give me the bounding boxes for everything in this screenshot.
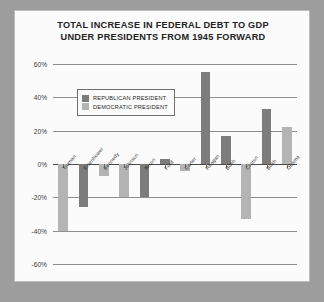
legend-swatch-icon bbox=[82, 95, 89, 102]
bar-rect bbox=[262, 109, 271, 164]
y-axis-tick-label: -60% bbox=[13, 261, 47, 268]
chart-title: TOTAL INCREASE IN FEDERAL DEBT TO GDP UN… bbox=[15, 20, 311, 43]
legend-label: DEMOCRATIC PRESIDENT bbox=[93, 104, 168, 110]
legend-label: REPUBLICAN PRESIDENT bbox=[93, 95, 166, 101]
legend-item-democratic: DEMOCRATIC PRESIDENT bbox=[82, 103, 168, 110]
chart-title-line-1: TOTAL INCREASE IN FEDERAL DEBT TO GDP bbox=[15, 20, 311, 32]
chart-title-line-2: UNDER PRESIDENTS FROM 1945 FORWARD bbox=[15, 32, 311, 44]
image-frame: TOTAL INCREASE IN FEDERAL DEBT TO GDP UN… bbox=[0, 0, 324, 302]
y-axis-tick-label: 0% bbox=[13, 161, 47, 168]
y-axis-tick-label: -40% bbox=[13, 227, 47, 234]
bar-rect bbox=[241, 164, 250, 219]
bar-rect bbox=[58, 164, 67, 231]
legend-swatch-icon bbox=[82, 103, 89, 110]
gridline--60% bbox=[53, 264, 297, 265]
y-axis-tick-label: -20% bbox=[13, 194, 47, 201]
y-axis-tick-label: 60% bbox=[13, 61, 47, 68]
bar-rect bbox=[282, 127, 291, 164]
chart-panel: TOTAL INCREASE IN FEDERAL DEBT TO GDP UN… bbox=[14, 10, 310, 282]
y-axis-tick-label: 40% bbox=[13, 94, 47, 101]
y-axis-tick-label: 20% bbox=[13, 127, 47, 134]
bar-rect bbox=[201, 72, 210, 164]
chart-legend: REPUBLICAN PRESIDENTDEMOCRATIC PRESIDENT bbox=[77, 89, 175, 116]
legend-item-republican: REPUBLICAN PRESIDENT bbox=[82, 95, 168, 102]
